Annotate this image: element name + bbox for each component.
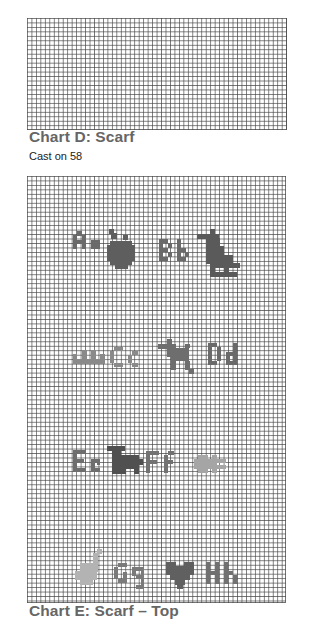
crown-icon <box>73 350 105 368</box>
elephant-icon <box>107 446 143 478</box>
heart-icon <box>166 562 196 592</box>
chart-d-title: Chart D: Scarf <box>29 128 135 146</box>
dog-icon <box>158 339 194 379</box>
letters-bb <box>159 239 189 265</box>
letters-gg <box>114 563 144 589</box>
letters-aa <box>73 231 103 253</box>
bird-icon <box>197 229 241 279</box>
guitar-icon <box>75 549 105 589</box>
letters-dd <box>208 343 238 367</box>
chart-e-title: Chart E: Scarf – Top <box>29 602 179 620</box>
apple-icon <box>106 229 137 274</box>
letters-cc <box>110 347 140 367</box>
letters-hh <box>206 562 238 584</box>
fish-icon <box>194 455 230 473</box>
chart-d-cast-on: Cast on 58 <box>29 150 82 162</box>
chart-e-grid <box>27 176 286 603</box>
chart-d-grid <box>27 18 287 130</box>
letters-ee <box>73 450 103 472</box>
letters-ff <box>146 451 176 473</box>
